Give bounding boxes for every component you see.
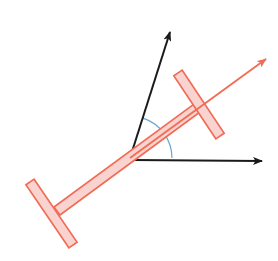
horizontal-vector-arrow bbox=[132, 160, 262, 161]
beam-end-top bbox=[174, 70, 224, 139]
i-beam bbox=[26, 70, 224, 248]
beam-end-bottom bbox=[26, 179, 77, 248]
beam-vector-diagram bbox=[0, 0, 278, 261]
beam-axis-vector-arrow bbox=[130, 59, 266, 158]
